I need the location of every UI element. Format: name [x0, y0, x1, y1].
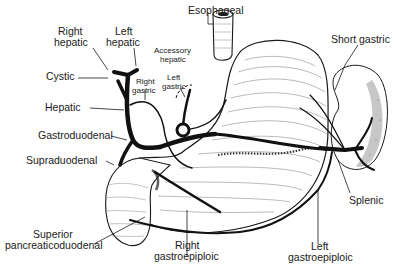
label-superior-pancreaticoduodenal-line2: pancreaticoduodenal	[5, 240, 103, 251]
label-left-hepatic-line2: hepatic	[106, 37, 140, 48]
label-hepatic: Hepatic	[45, 102, 81, 113]
label-right-hepatic-line2: hepatic	[54, 37, 88, 48]
label-supraduodenal: Supraduodenal	[26, 155, 97, 166]
label-short-gastric: Short gastric	[331, 34, 390, 45]
label-left-gastroepiploic-line2: gastroepiploic	[288, 252, 353, 263]
label-cystic: Cystic	[46, 71, 75, 82]
label-right-gastric-line2: gastric	[132, 87, 156, 96]
celiac-trunk-marker	[177, 124, 189, 136]
label-esophageal: Esophageal	[188, 5, 243, 16]
label-splenic: Splenic	[349, 195, 383, 206]
spleen	[331, 65, 387, 169]
label-gastroduodenal: Gastroduodenal	[38, 130, 113, 141]
label-accessory-hepatic-line2: hepatic	[160, 56, 186, 65]
label-right-gastroepiploic-line2: gastroepiploic	[154, 251, 219, 262]
esophagus	[213, 10, 233, 60]
label-left-gastric-line2: gastric	[162, 83, 186, 92]
